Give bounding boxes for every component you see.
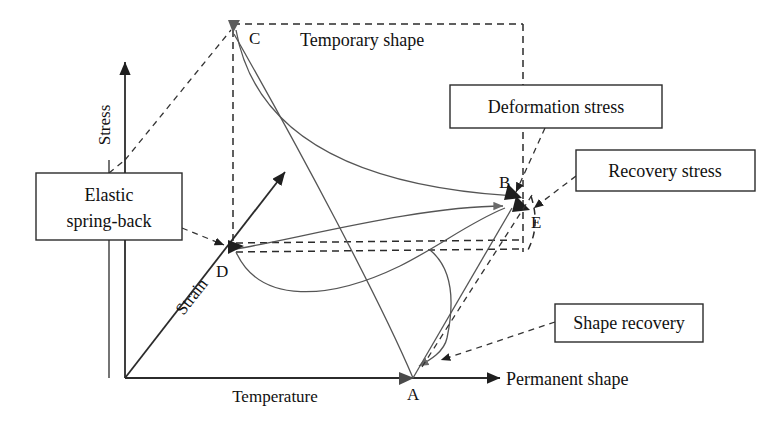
process-curve-group [234, 30, 515, 378]
dashed-horizontal-lower [236, 249, 523, 252]
curve-a-to-c [234, 34, 413, 378]
point-label-b: B [499, 173, 510, 192]
leader-elastic-to-c [125, 30, 231, 160]
leader-elastic-to-d [182, 228, 224, 245]
stress-axis-label: Stress [95, 105, 114, 146]
shape-memory-cycle-diagram: Elastic spring-back Deformation stress R… [0, 0, 784, 424]
leader-shape-recovery-to-a [441, 322, 555, 360]
line-a-to-e [413, 208, 512, 378]
leader-elastic-top [109, 160, 125, 173]
leader-recovery-to-e [534, 176, 576, 208]
curve-dip-to-e [400, 208, 505, 266]
callout-shape-recovery-label: Shape recovery [573, 313, 684, 333]
dashed-frame-group [233, 24, 535, 252]
temporary-shape-label: Temporary shape [300, 30, 424, 50]
strain-axis-label: Strain [172, 274, 212, 318]
leader-deformation-to-b [516, 128, 545, 192]
point-label-c: C [249, 29, 260, 48]
callout-deformation-stress[interactable]: Deformation stress [450, 85, 662, 128]
curve-drop-to-a [419, 338, 447, 366]
point-marker-group [228, 20, 530, 385]
callout-elastic-spring-back-line2: spring-back [67, 211, 152, 231]
figure-canvas: Elastic spring-back Deformation stress R… [0, 0, 784, 424]
point-label-e: E [531, 213, 541, 232]
callout-elastic-spring-back[interactable]: Elastic spring-back [36, 173, 182, 240]
leader-b-down-to-a [420, 195, 532, 370]
point-label-d: D [216, 262, 228, 281]
curve-d-dip [236, 252, 400, 292]
point-label-a: A [407, 385, 420, 404]
temperature-axis-label: Temperature [232, 387, 318, 406]
callout-recovery-stress[interactable]: Recovery stress [576, 150, 755, 191]
callout-shape-recovery[interactable]: Shape recovery [555, 304, 703, 342]
curve-strain-drop [430, 250, 451, 338]
callout-deformation-stress-label: Deformation stress [488, 97, 624, 117]
callout-recovery-stress-label: Recovery stress [608, 161, 721, 181]
permanent-shape-label: Permanent shape [506, 369, 628, 389]
callout-elastic-spring-back-line1: Elastic [85, 185, 134, 205]
